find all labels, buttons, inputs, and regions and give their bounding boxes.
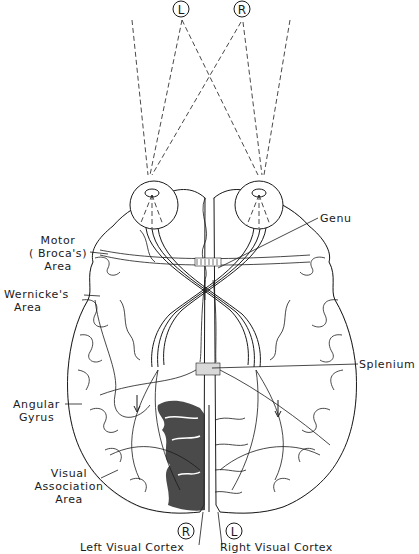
svg-text:Angular: Angular xyxy=(13,398,60,411)
visual-field-marker-right: R xyxy=(234,1,250,17)
svg-text:Area: Area xyxy=(14,301,42,314)
svg-text:Area: Area xyxy=(55,493,83,506)
label-genu: Genu xyxy=(320,212,352,225)
visual-field-marker-left: L xyxy=(173,1,189,17)
label-visual-association-area: Visual Association Area xyxy=(34,467,103,506)
right-hemisphere xyxy=(214,190,356,514)
sight-lines xyxy=(132,20,290,175)
cortex-marker-right: L xyxy=(226,523,242,539)
label-right-visual-cortex: Right Visual Cortex xyxy=(220,541,333,554)
svg-text:Gyrus: Gyrus xyxy=(19,411,54,424)
svg-text:Association: Association xyxy=(34,480,103,493)
svg-text:R: R xyxy=(238,3,246,17)
svg-text:L: L xyxy=(178,3,185,17)
svg-text:Area: Area xyxy=(44,260,72,273)
svg-text:L: L xyxy=(231,525,238,539)
label-splenium: Splenium xyxy=(359,358,415,371)
svg-text:R: R xyxy=(182,525,190,539)
cortex-marker-left: R xyxy=(178,523,194,539)
svg-text:Visual: Visual xyxy=(51,467,87,480)
svg-text:Motor: Motor xyxy=(41,234,76,247)
left-eye xyxy=(130,181,178,229)
label-left-visual-cortex: Left Visual Cortex xyxy=(80,541,184,554)
label-angular-gyrus: Angular Gyrus xyxy=(13,398,60,424)
brain-visual-pathway-diagram: L R xyxy=(0,0,419,554)
right-eye xyxy=(235,181,283,229)
svg-text:Wernicke's: Wernicke's xyxy=(4,288,69,301)
label-motor-brocas-area: Motor ( Broca's) Area xyxy=(29,234,87,273)
label-wernickes-area: Wernicke's Area xyxy=(4,288,69,314)
svg-text:( Broca's): ( Broca's) xyxy=(29,247,87,260)
